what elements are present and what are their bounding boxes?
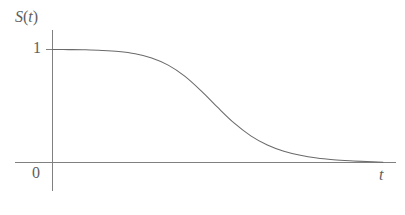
survival-function-figure: S(t) t 1 0 [0,0,405,215]
survival-curve [53,50,384,163]
y-tick-label-one: 1 [33,40,41,56]
y-axis-label-symbol: S [15,8,23,25]
plot-canvas [0,0,405,215]
y-axis-label: S(t) [15,9,38,25]
y-axis-label-close-paren: ) [33,8,38,25]
x-axis-label: t [379,167,383,183]
origin-label: 0 [32,165,40,181]
